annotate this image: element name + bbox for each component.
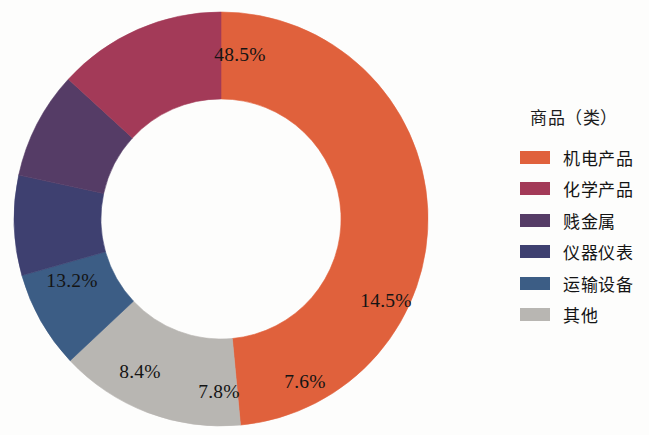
donut-svg: 48.5%14.5%7.6%7.8%8.4%13.2%: [6, 4, 436, 434]
chart-canvas: 48.5%14.5%7.6%7.8%8.4%13.2% 商品（类） 机电产品化学…: [0, 0, 649, 435]
legend-item-list: 机电产品化学产品贱金属仪器仪表运输设备其他: [520, 143, 648, 329]
legend-item-label: 运输设备: [563, 271, 633, 296]
donut-slice[interactable]: [221, 12, 428, 425]
legend-item-label: 贱金属: [563, 208, 616, 233]
legend-item-label: 化学产品: [563, 176, 633, 201]
donut-slice-label: 48.5%: [214, 44, 265, 65]
legend-item[interactable]: 仪器仪表: [520, 238, 648, 266]
legend-swatch-icon: [520, 245, 550, 258]
donut-slice-label: 13.2%: [46, 270, 97, 291]
legend-item-label: 机电产品: [563, 145, 633, 170]
legend-item[interactable]: 贱金属: [520, 206, 648, 234]
legend-item-label: 其他: [563, 302, 598, 327]
legend-swatch-icon: [520, 182, 550, 195]
donut-chart: 48.5%14.5%7.6%7.8%8.4%13.2%: [6, 4, 436, 434]
legend-swatch-icon: [520, 308, 550, 321]
legend-item[interactable]: 化学产品: [520, 175, 648, 203]
legend-swatch-icon: [520, 214, 550, 227]
legend-title: 商品（类）: [530, 104, 648, 129]
legend-swatch-icon: [520, 151, 550, 164]
legend-item[interactable]: 运输设备: [520, 269, 648, 297]
donut-slice-label: 8.4%: [119, 361, 160, 382]
legend-item[interactable]: 机电产品: [520, 143, 648, 171]
donut-slice-label: 7.6%: [284, 371, 325, 392]
donut-slice-group: [14, 12, 428, 426]
legend-item[interactable]: 其他: [520, 301, 648, 329]
donut-slice-label: 7.8%: [198, 381, 239, 402]
legend-swatch-icon: [520, 277, 550, 290]
donut-slice-label: 14.5%: [360, 290, 411, 311]
legend: 商品（类） 机电产品化学产品贱金属仪器仪表运输设备其他: [520, 104, 648, 332]
legend-item-label: 仪器仪表: [563, 239, 633, 264]
